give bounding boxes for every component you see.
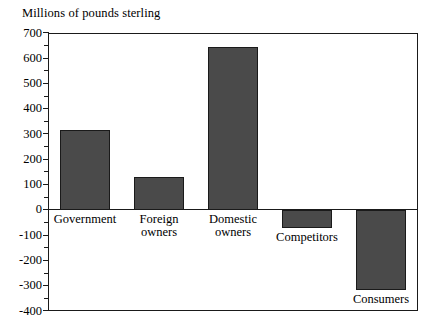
y-tick-minor	[44, 298, 48, 299]
y-tick-major	[43, 108, 49, 109]
y-tick-minor	[44, 45, 48, 46]
bar-consumers	[356, 210, 406, 290]
y-tick-major	[43, 235, 49, 236]
y-tick-major	[43, 310, 49, 311]
y-tick-label: 500	[0, 77, 42, 90]
y-tick-label: 700	[0, 27, 42, 40]
y-tick-minor	[44, 273, 48, 274]
y-tick-label: -200	[0, 254, 42, 267]
bar-government	[60, 130, 110, 210]
y-tick-major	[43, 58, 49, 59]
y-tick-major	[43, 159, 49, 160]
y-tick-major	[43, 285, 49, 286]
category-label-line: Consumers	[329, 293, 433, 307]
y-tick-minor	[44, 171, 48, 172]
y-tick-label: -300	[0, 279, 42, 292]
y-tick-label: 300	[0, 128, 42, 141]
y-tick-major	[43, 184, 49, 185]
y-tick-minor	[44, 197, 48, 198]
y-tick-label: 400	[0, 102, 42, 115]
category-label-competitors: Competitors	[255, 231, 359, 245]
y-tick-minor	[44, 247, 48, 248]
y-tick-label: -100	[0, 229, 42, 242]
y-tick-major	[43, 133, 49, 134]
y-tick-major	[43, 32, 49, 33]
y-tick-major	[43, 260, 49, 261]
y-tick-minor	[44, 146, 48, 147]
bar-competitors	[282, 210, 332, 228]
y-tick-minor	[44, 70, 48, 71]
y-tick-major	[43, 83, 49, 84]
bar-foreign-owners	[134, 177, 184, 210]
chart-axis-title: Millions of pounds sterling	[22, 6, 160, 21]
y-tick-minor	[44, 96, 48, 97]
bar-chart: Millions of pounds sterling 700600500400…	[0, 0, 440, 329]
category-label-line: Competitors	[255, 231, 359, 245]
y-tick-label: 100	[0, 178, 42, 191]
y-tick-label: 200	[0, 153, 42, 166]
y-tick-minor	[44, 121, 48, 122]
bar-domestic-owners	[208, 47, 258, 210]
y-tick-label: -400	[0, 305, 42, 318]
y-tick-label: 600	[0, 52, 42, 65]
category-label-consumers: Consumers	[329, 293, 433, 307]
category-label-line: Domestic	[181, 213, 285, 227]
